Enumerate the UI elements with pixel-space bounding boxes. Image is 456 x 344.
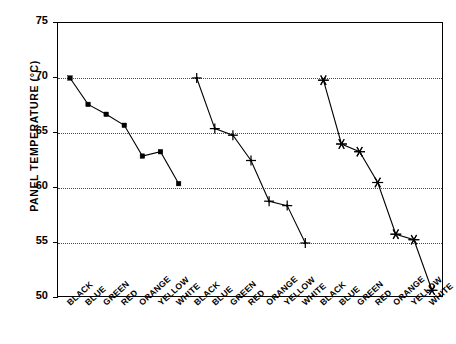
y-tick-label-70: 70 <box>18 69 48 81</box>
data-point-group-2-orange <box>264 196 274 206</box>
data-point-group-2-blue <box>210 124 220 134</box>
data-point-group-1-red <box>122 123 127 128</box>
data-point-group-3-black <box>318 76 329 85</box>
data-point-group-3-blue <box>336 139 347 148</box>
data-point-group-2-yellow <box>282 201 292 211</box>
data-point-group-1-blue <box>86 102 91 107</box>
data-point-group-3-green <box>354 147 365 156</box>
series-group-1 <box>68 76 181 186</box>
y-tick-label-75: 75 <box>18 14 48 26</box>
data-point-group-1-green <box>104 112 109 117</box>
y-axis-title: PANEL TEMPERATURE (°C) <box>28 6 40 266</box>
data-point-group-2-black <box>192 73 202 83</box>
data-point-group-1-black <box>68 76 73 81</box>
data-point-group-1-white <box>176 181 181 186</box>
plot-area <box>57 22 443 297</box>
y-tick-label-60: 60 <box>18 179 48 191</box>
data-point-group-1-yellow <box>158 149 163 154</box>
y-tick-label-55: 55 <box>18 234 48 246</box>
data-point-group-3-red <box>372 178 383 187</box>
y-tick-label-50: 50 <box>18 289 48 301</box>
data-point-group-2-green <box>228 130 238 140</box>
y-tick-mark-50 <box>53 297 58 298</box>
data-point-group-3-orange <box>390 230 401 239</box>
chart-figure: PANEL TEMPERATURE (°C) 757065605550 BLAC… <box>0 0 456 344</box>
series-group-2 <box>192 73 311 248</box>
data-point-group-1-orange <box>140 154 145 159</box>
data-point-group-2-red <box>246 156 256 166</box>
data-point-group-2-white <box>300 238 310 248</box>
series-group-3 <box>318 76 437 295</box>
y-tick-label-65: 65 <box>18 124 48 136</box>
data-series-layer <box>58 23 441 295</box>
data-point-group-3-yellow <box>409 235 420 244</box>
